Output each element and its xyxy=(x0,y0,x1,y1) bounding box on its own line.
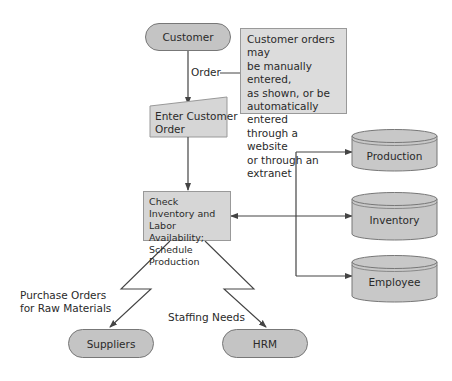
employee-label: Employee xyxy=(352,276,437,288)
check-inventory-node: Check Inventory and Labor Availability; … xyxy=(143,191,231,241)
check-line-1: Check Inventory and xyxy=(149,196,225,220)
check-line-3: Schedule Production xyxy=(149,244,225,268)
hrm-node: HRM xyxy=(222,329,308,358)
purchase-orders-line-2: for Raw Materials xyxy=(20,302,111,315)
customer-node: Customer xyxy=(145,23,231,51)
suppliers-label: Suppliers xyxy=(87,338,136,350)
note-line-2: be manually entered, xyxy=(247,60,340,87)
note-line-6: or through an extranet xyxy=(247,154,340,181)
suppliers-node: Suppliers xyxy=(68,329,154,358)
note-line-4: automatically entered xyxy=(247,100,340,127)
staffing-needs-label: Staffing Needs xyxy=(168,311,245,324)
enter-order-node: Enter Customer Order xyxy=(155,110,238,135)
customer-label: Customer xyxy=(162,31,213,43)
enter-order-line-1: Enter Customer xyxy=(155,110,238,123)
note-line-3: as shown, or be xyxy=(247,87,340,100)
note-line-1: Customer orders may xyxy=(247,33,340,60)
production-label: Production xyxy=(352,150,437,162)
purchase-orders-label: Purchase Orders for Raw Materials xyxy=(20,289,111,315)
check-line-2: Labor Availability; xyxy=(149,220,225,244)
hrm-label: HRM xyxy=(253,338,277,350)
enter-order-line-2: Order xyxy=(155,123,238,136)
inventory-label: Inventory xyxy=(352,214,437,226)
annotation-note: Customer orders may be manually entered,… xyxy=(240,28,347,114)
note-line-5: through a website xyxy=(247,127,340,154)
order-edge-label: Order xyxy=(191,66,221,79)
purchase-orders-line-1: Purchase Orders xyxy=(20,289,111,302)
